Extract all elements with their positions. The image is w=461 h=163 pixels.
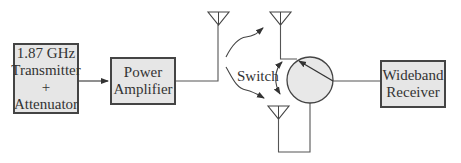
- receive-antenna-upper-icon: [270, 12, 297, 59]
- transmitter-line-3: +: [42, 79, 50, 96]
- receiver-line-1: Wideband: [382, 67, 443, 84]
- pa-to-antenna-line: [175, 25, 218, 81]
- transmitter-line-1: 1.87 GHz: [17, 45, 75, 62]
- transmitter-block: 1.87 GHz Transmitter + Attenuator: [13, 43, 79, 114]
- power-amplifier-line-2: Amplifier: [113, 81, 172, 98]
- transmitter-line-4: Attenuator: [14, 96, 78, 113]
- receive-antenna-lower-icon: [268, 103, 310, 152]
- transmit-antenna-icon: [208, 12, 229, 25]
- receiver-line-2: Receiver: [386, 84, 439, 101]
- switch-label: Switch: [237, 68, 279, 85]
- power-amplifier-line-1: Power: [124, 64, 162, 81]
- power-amplifier-block: Power Amplifier: [110, 57, 176, 105]
- receiver-block: Wideband Receiver: [380, 60, 446, 108]
- block-diagram: 1.87 GHz Transmitter + Attenuator Power …: [0, 0, 461, 163]
- transmitter-line-2: Transmitter: [11, 62, 80, 79]
- rotary-switch-icon: [287, 57, 333, 103]
- propagation-arrow-upper: [226, 28, 263, 57]
